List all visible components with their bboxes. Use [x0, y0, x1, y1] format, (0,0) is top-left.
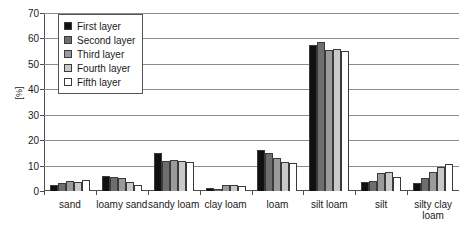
bar[interactable]: [317, 42, 325, 191]
bar-group: [303, 13, 355, 191]
x-tick: silt: [355, 191, 407, 231]
bar-group: [252, 13, 304, 191]
bar[interactable]: [289, 163, 297, 191]
x-tick-mark: [148, 191, 149, 195]
bar[interactable]: [369, 181, 377, 191]
y-tick-label: 10: [28, 160, 39, 171]
bar-chart: [%] 010203040506070 sandloamy sandsandy …: [0, 0, 464, 231]
bar[interactable]: [393, 177, 401, 191]
x-tick-label: silt loam: [303, 191, 355, 210]
bar-group: [148, 13, 200, 191]
bar[interactable]: [66, 181, 74, 191]
x-tick-mark: [96, 191, 97, 195]
y-tick-label: 20: [28, 135, 39, 146]
legend-swatch-icon: [64, 36, 72, 44]
bar[interactable]: [421, 178, 429, 191]
x-tick-mark: [200, 191, 201, 195]
x-tick-label: loamy sand: [96, 191, 148, 210]
bar[interactable]: [341, 51, 349, 191]
y-tick-label: 50: [28, 58, 39, 69]
bar-group: [407, 13, 459, 191]
y-tick-label: 70: [28, 8, 39, 19]
bar[interactable]: [58, 183, 66, 191]
legend-label: Second layer: [77, 35, 135, 46]
legend-item[interactable]: First layer: [64, 19, 135, 33]
legend-swatch-icon: [64, 22, 72, 30]
bar[interactable]: [178, 161, 186, 191]
chart-legend: First layerSecond layerThird layerFourth…: [58, 14, 143, 94]
x-tick: silty clay loam: [407, 191, 459, 231]
bar[interactable]: [74, 182, 82, 191]
legend-label: Fifth layer: [77, 77, 121, 88]
bar[interactable]: [325, 50, 333, 191]
legend-item[interactable]: Second layer: [64, 33, 135, 47]
y-axis-title: [%]: [14, 76, 24, 110]
bar[interactable]: [82, 180, 90, 191]
bar[interactable]: [110, 177, 118, 191]
legend-label: Fourth layer: [77, 63, 130, 74]
legend-swatch-icon: [64, 64, 72, 72]
bar-group: [200, 13, 252, 191]
legend-item[interactable]: Fifth layer: [64, 75, 135, 89]
bar[interactable]: [265, 153, 273, 191]
bar[interactable]: [333, 49, 341, 191]
x-tick-label: silty clay loam: [407, 191, 459, 221]
x-axis-ticks: sandloamy sandsandy loamclay loamloamsil…: [44, 191, 459, 231]
x-tick-mark: [407, 191, 408, 195]
bar[interactable]: [309, 45, 317, 191]
bar[interactable]: [186, 162, 194, 191]
x-tick-mark: [252, 191, 253, 195]
x-tick: loam: [252, 191, 304, 231]
bar[interactable]: [385, 172, 393, 191]
bar[interactable]: [445, 164, 453, 191]
x-tick-label: sand: [44, 191, 96, 210]
legend-swatch-icon: [64, 78, 72, 86]
x-tick-label: sandy loam: [148, 191, 200, 210]
x-tick-mark: [44, 191, 45, 195]
y-tick-label: 30: [28, 109, 39, 120]
bar[interactable]: [377, 173, 385, 191]
bar[interactable]: [154, 153, 162, 191]
x-tick: sand: [44, 191, 96, 231]
bar[interactable]: [413, 183, 421, 191]
x-tick: sandy loam: [148, 191, 200, 231]
bar[interactable]: [170, 160, 178, 191]
x-tick: loamy sand: [96, 191, 148, 231]
y-tick-label: 0: [33, 186, 39, 197]
bar[interactable]: [118, 178, 126, 191]
bar-group: [355, 13, 407, 191]
x-tick-label: loam: [252, 191, 304, 210]
legend-item[interactable]: Fourth layer: [64, 61, 135, 75]
y-tick-label: 40: [28, 84, 39, 95]
bar[interactable]: [361, 182, 369, 191]
bar[interactable]: [102, 176, 110, 191]
bar[interactable]: [126, 182, 134, 191]
bar[interactable]: [162, 161, 170, 191]
bar[interactable]: [429, 172, 437, 191]
x-tick-mark: [355, 191, 356, 195]
bar[interactable]: [257, 150, 265, 191]
x-tick-label: silt: [355, 191, 407, 210]
legend-label: Third layer: [77, 49, 124, 60]
bar[interactable]: [273, 158, 281, 191]
y-tick-label: 60: [28, 33, 39, 44]
bar[interactable]: [281, 162, 289, 191]
x-tick: clay loam: [200, 191, 252, 231]
x-tick-label: clay loam: [200, 191, 252, 210]
x-tick: silt loam: [303, 191, 355, 231]
bar[interactable]: [437, 167, 445, 191]
x-tick-mark: [303, 191, 304, 195]
legend-label: First layer: [77, 21, 121, 32]
legend-swatch-icon: [64, 50, 72, 58]
legend-item[interactable]: Third layer: [64, 47, 135, 61]
